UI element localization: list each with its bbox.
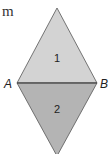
region-label-1: 1: [54, 52, 60, 64]
triangle-1: [17, 8, 97, 83]
vertex-label-b: B: [100, 77, 108, 91]
rhombus-diagram: 1 2 A B: [0, 0, 110, 154]
triangle-2: [17, 83, 97, 154]
region-label-2: 2: [54, 103, 60, 115]
vertex-label-a: A: [3, 77, 12, 91]
